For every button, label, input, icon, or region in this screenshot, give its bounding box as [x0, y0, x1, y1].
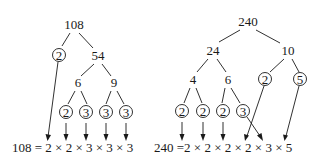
edge	[292, 59, 299, 72]
edge	[79, 33, 93, 48]
edge	[68, 91, 75, 104]
edge	[217, 59, 226, 72]
node-root: 240	[238, 14, 258, 29]
leaf-prime: 2	[63, 105, 70, 120]
equation-240: 240 =2 × 2 × 2 × 2 × 3 × 5	[154, 140, 292, 155]
node-prime: 5	[297, 72, 304, 87]
arrow	[48, 62, 58, 137]
edge	[62, 33, 70, 46]
factor-trees-diagram: 108 2 54 6 9 2 3 3 3 1	[0, 0, 315, 160]
node-composite: 6	[75, 75, 82, 90]
edge	[81, 91, 87, 104]
edge	[197, 59, 208, 72]
node-prime: 2	[262, 72, 269, 87]
arrow	[286, 86, 299, 136]
node-composite: 6	[225, 72, 232, 87]
leaf-prime: 3	[123, 105, 130, 120]
leaf-prime: 2	[200, 104, 207, 119]
edge	[231, 88, 240, 103]
arrow	[247, 117, 260, 136]
leaf-prime: 3	[103, 105, 110, 120]
node-composite: 10	[282, 43, 295, 58]
factor-tree-240: 240 24 10 4 6 2 5 2 2 2 3	[154, 14, 307, 155]
node-composite: 24	[207, 43, 221, 58]
node-prime: 2	[56, 48, 63, 63]
edge	[81, 64, 94, 76]
edge	[196, 88, 202, 103]
node-composite: 9	[111, 75, 118, 90]
edge	[102, 64, 111, 76]
edge	[184, 88, 190, 103]
equation-108: 108 = 2 × 2 × 3 × 3 × 3	[12, 140, 133, 155]
edge	[256, 30, 280, 43]
edge	[222, 88, 225, 103]
edge	[270, 59, 284, 72]
leaf-prime: 3	[83, 105, 90, 120]
leaf-prime: 2	[179, 104, 186, 119]
leaf-prime: 3	[240, 104, 247, 119]
edge	[106, 91, 111, 104]
node-root: 108	[64, 17, 84, 32]
edge	[219, 30, 240, 42]
factor-tree-108: 108 2 54 6 9 2 3 3 3 1	[12, 17, 133, 155]
node-composite: 4	[190, 72, 197, 87]
node-composite: 54	[92, 48, 106, 63]
leaf-prime: 2	[220, 104, 227, 119]
edge	[117, 91, 124, 104]
